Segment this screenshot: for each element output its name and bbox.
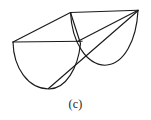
figure-container: (c): [0, 0, 151, 120]
figure-caption: (c): [0, 97, 151, 111]
mid-horizontal-edge-line: [13, 41, 82, 42]
bottom-slant-edge-line: [49, 11, 139, 89]
left-upper-edge-line: [13, 13, 71, 43]
top-edge-line: [71, 10, 139, 12]
right-semicircular-arc: [71, 11, 139, 66]
left-semicircular-arc: [13, 42, 81, 89]
